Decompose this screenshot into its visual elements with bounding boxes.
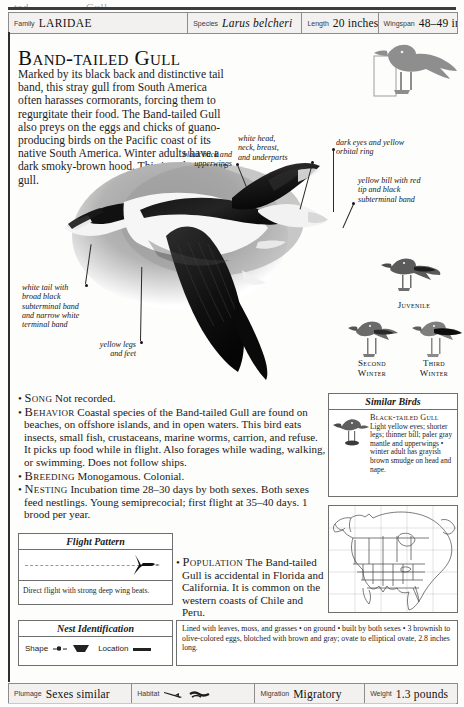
header-data-bar: Family LARIDAE Species Larus belcheri Le… bbox=[8, 12, 458, 34]
top-rule bbox=[8, 7, 456, 10]
fact-nesting: • Nesting Incubation time 28–30 days by … bbox=[18, 483, 326, 521]
header-value-wingspan: 48–49 inches bbox=[419, 17, 457, 29]
fact-text-breeding: Monogamous. Colonial. bbox=[78, 470, 185, 482]
left-margin-rule bbox=[8, 32, 10, 682]
annotation-dark-eyes: dark eyes and yellow orbital ring bbox=[336, 138, 456, 157]
annotation-white-head: white head, neck, breast, and underparts bbox=[238, 134, 308, 162]
header-value-length: 20 inches bbox=[333, 17, 379, 29]
nest-identification-header: Nest Identification bbox=[19, 621, 172, 637]
header-field-family: Family LARIDAE bbox=[9, 13, 188, 33]
footer-value-plumage: Sexes similar bbox=[46, 688, 110, 700]
annotation-white-tail: white tail with broad black subterminal … bbox=[22, 283, 100, 329]
similar-birds-box: Similar Birds Black-tailed Gull Light ye… bbox=[328, 393, 458, 497]
annotation-yellow-bill: yellow bill with red tip and black subte… bbox=[358, 176, 462, 204]
footer-label-plumage: Plumage bbox=[14, 690, 42, 697]
fact-keyword-song: Song bbox=[25, 391, 53, 405]
bullet-population: • bbox=[176, 556, 183, 568]
fact-behavior: • Behavior Coastal species of the Band-t… bbox=[18, 406, 326, 469]
flight-pattern-caption: Direct flight with strong deep wing beat… bbox=[19, 581, 172, 595]
footer-value-migration: Migratory bbox=[293, 688, 341, 700]
habitat-shoreline-icon bbox=[163, 689, 183, 699]
footer-data-bar: Plumage Sexes similar Habitat Migration … bbox=[8, 683, 458, 704]
nest-shape-label: Shape bbox=[25, 644, 48, 653]
figure-caption-juvenile: Juvenile bbox=[376, 300, 452, 310]
fact-keyword-behavior: Behavior bbox=[25, 405, 75, 419]
fact-keyword-population: Population bbox=[183, 555, 243, 569]
gull-silhouette-icon bbox=[360, 40, 460, 118]
bullet-song: • bbox=[18, 392, 25, 404]
north-america-range-map bbox=[329, 506, 457, 612]
figure-caption-third-winter: Third Winter bbox=[404, 358, 464, 378]
header-label-species: Species bbox=[193, 20, 218, 27]
top-cut-text-scrap: ted Gull bbox=[0, 0, 464, 7]
fact-keyword-breeding: Breeding bbox=[25, 469, 75, 483]
annotation-leader-yellow-bill bbox=[342, 204, 353, 228]
field-guide-page: ted Gull Family LARIDAE Species Larus be… bbox=[0, 0, 464, 707]
footer-label-weight: Weight bbox=[370, 690, 392, 697]
nest-identification-symbols: Shape Location bbox=[19, 637, 172, 654]
similar-bird-description: Light yellow eyes; shorter legs; thinner… bbox=[370, 422, 452, 448]
annotation-dot-yellow-legs bbox=[140, 341, 143, 344]
bullet-nesting: • bbox=[18, 483, 25, 495]
similar-birds-entry: Black-tailed Gull Light yellow eyes; sho… bbox=[329, 410, 457, 474]
fact-breeding: • Breeding Monogamous. Colonial. bbox=[18, 470, 326, 483]
annotation-dot-white-tail bbox=[85, 284, 88, 287]
fact-population: • Population The Band-tailed Gull is acc… bbox=[176, 556, 326, 619]
header-value-family: LARIDAE bbox=[39, 17, 92, 29]
header-field-wingspan: Wingspan 48–49 inches bbox=[379, 13, 457, 33]
bottom-edge-rule bbox=[8, 703, 456, 704]
header-label-wingspan: Wingspan bbox=[384, 20, 415, 27]
figure-caption-second-winter: Second Winter bbox=[336, 358, 408, 378]
footer-field-migration: Migration Migratory bbox=[255, 684, 365, 703]
header-value-species: Larus belcheri bbox=[222, 17, 292, 29]
footer-label-migration: Migration bbox=[260, 690, 289, 697]
bullet-breeding: • bbox=[18, 470, 25, 482]
fact-song: • Song Not recorded. bbox=[18, 392, 326, 405]
black-tailed-gull-icon bbox=[332, 416, 370, 452]
flight-pattern-diagram bbox=[19, 550, 172, 581]
facts-section: • Song Not recorded. • Behavior Coastal … bbox=[18, 392, 326, 522]
flight-pattern-box: Flight Pattern Direct flight with strong… bbox=[18, 533, 173, 605]
footer-field-weight: Weight 1.3 pounds bbox=[365, 684, 457, 703]
footer-label-habitat: Habitat bbox=[137, 690, 159, 697]
annotation-yellow-legs: yellow legs and feet bbox=[84, 340, 136, 359]
nest-shape-cup-icon bbox=[72, 643, 90, 654]
header-label-length: Length bbox=[307, 20, 328, 27]
bullet-behavior: • bbox=[18, 406, 25, 418]
figure-juvenile bbox=[376, 254, 442, 300]
range-map-box bbox=[328, 505, 458, 613]
header-field-species: Species Larus belcheri bbox=[188, 13, 302, 33]
footer-field-plumage: Plumage Sexes similar bbox=[9, 684, 132, 703]
nest-location-ground-icon bbox=[132, 645, 152, 653]
nest-identification-description: Lined with leaves, moss, and grasses • o… bbox=[176, 620, 458, 666]
fact-keyword-nesting: Nesting bbox=[25, 482, 68, 496]
header-field-length: Length 20 inches bbox=[302, 13, 378, 33]
habitat-open-water-icon bbox=[189, 689, 211, 699]
annotation-leader-dark-eyes bbox=[333, 150, 334, 212]
flight-pattern-header: Flight Pattern bbox=[19, 534, 172, 550]
footer-field-habitat: Habitat bbox=[132, 684, 255, 703]
nest-shape-scrape-icon bbox=[52, 644, 68, 654]
fact-text-song: Not recorded. bbox=[55, 392, 115, 404]
header-label-family: Family bbox=[14, 20, 35, 27]
similar-birds-text-block: Black-tailed Gull Light yellow eyes; sho… bbox=[370, 414, 453, 474]
nest-identification-box: Nest Identification Shape Location bbox=[18, 620, 173, 666]
flying-bird-glyph bbox=[127, 555, 163, 575]
footer-value-weight: 1.3 pounds bbox=[396, 688, 448, 700]
similar-birds-header: Similar Birds bbox=[329, 394, 457, 410]
nest-location-label: Location bbox=[98, 644, 128, 653]
annotation-black-back: black back and upperwings bbox=[170, 150, 232, 169]
